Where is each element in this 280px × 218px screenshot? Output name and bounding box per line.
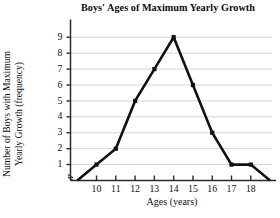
data-series-line <box>77 37 270 180</box>
data-point-marker <box>172 35 176 39</box>
data-point-marker <box>210 131 214 135</box>
y-tick-label: 9 <box>49 32 63 42</box>
x-tick-label: 13 <box>144 184 164 194</box>
y-tick-label: 8 <box>49 48 63 58</box>
y-tick-label: 1 <box>49 159 63 169</box>
data-point-marker <box>152 67 156 71</box>
x-tick-label: 16 <box>202 184 222 194</box>
series-polyline <box>77 37 270 180</box>
data-point-marker <box>249 162 253 166</box>
data-point-marker <box>133 99 137 103</box>
x-tick-label: 10 <box>87 184 107 194</box>
data-point-marker <box>191 83 195 87</box>
y-tick-label: 5 <box>49 96 63 106</box>
x-tick-label: 12 <box>125 184 145 194</box>
x-tick-label: 18 <box>241 184 261 194</box>
data-point-marker <box>229 162 233 166</box>
y-tick-label: 2 <box>49 143 63 153</box>
x-tick-label: 14 <box>164 184 184 194</box>
data-point-marker <box>114 147 118 151</box>
data-point-marker <box>94 162 98 166</box>
x-tick-label: 17 <box>222 184 242 194</box>
x-tick-label: 11 <box>106 184 126 194</box>
axis-lines <box>68 20 276 181</box>
x-tick-label: 15 <box>183 184 203 194</box>
y-tick-label: 7 <box>49 64 63 74</box>
tick-marks <box>67 37 251 180</box>
y-tick-label: 3 <box>49 127 63 137</box>
gridlines <box>71 37 273 164</box>
y-tick-label: 4 <box>49 111 63 121</box>
y-tick-label: 6 <box>49 80 63 90</box>
chart-figure: Boys' Ages of Maximum Yearly Growth Numb… <box>0 0 280 218</box>
